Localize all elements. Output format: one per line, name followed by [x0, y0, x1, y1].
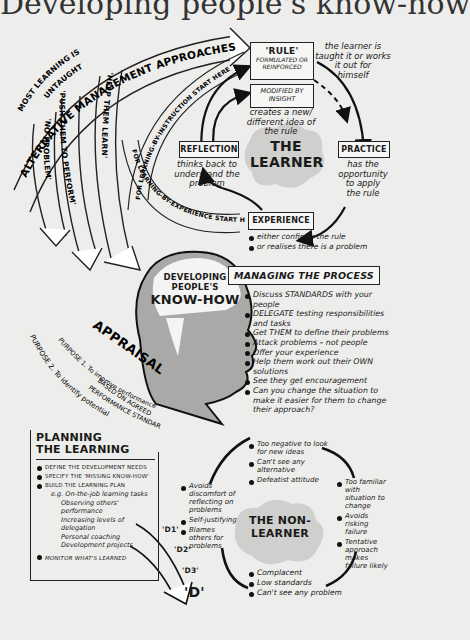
list-item: Defeatist attitude: [248, 476, 328, 484]
reflection-note: thinks back tounderstand the problem: [172, 160, 242, 189]
list-item: Offer your experience: [244, 348, 390, 358]
planning-box-bottom: [30, 580, 158, 581]
list-item: Can't see any alternative: [248, 458, 328, 474]
list-item: DEFINE THE DEVELOPMENT NEEDS: [36, 463, 159, 472]
non-learner-right: Too familiar with situation to change Av…: [336, 478, 392, 570]
list-item: Avoids discomfort of reflecting on probl…: [180, 482, 238, 514]
list-item: SPECIFY THE 'MISSING KNOW-HOW': [36, 472, 159, 481]
reflection-box: REFLECTION: [179, 141, 239, 158]
non-learner-left: Avoids discomfort of reflecting on probl…: [180, 482, 238, 550]
learner-center: THELEARNER: [250, 138, 322, 170]
practice-box: PRACTICE: [338, 141, 390, 158]
most-learning-label: MOST LEARNING IS: [16, 47, 81, 113]
experience-box: EXPERIENCE: [248, 212, 314, 230]
d3-label: 'D3': [182, 566, 199, 575]
modified-note: creates a new/different idea of the rule: [244, 108, 318, 137]
list-item: Complacent: [248, 568, 348, 578]
planning-box-right: [158, 452, 159, 580]
list-item: Tentative approach makes failure likely: [336, 538, 392, 570]
list-item: Too familiar with situation to change: [336, 478, 392, 510]
list-item: See they get encouragement: [244, 376, 390, 386]
list-item: Attack problems – not people: [244, 338, 390, 348]
managing-list: Discuss STANDARDS with your people DELEG…: [244, 290, 390, 415]
list-item: Discuss STANDARDS with your people: [244, 290, 390, 309]
non-learner-center: THE NON-LEARNER: [242, 514, 318, 540]
list-item: Get THEM to define their problems: [244, 328, 390, 338]
planning-box: PLANNING THE LEARNING DEFINE THE DEVELOP…: [30, 430, 159, 581]
list-item: Low standards: [248, 578, 348, 588]
list-item: Can't see any problem: [248, 588, 348, 598]
experience-bullets: either confirms the rule or realises the…: [248, 232, 367, 252]
managing-process-box: MANAGING THE PROCESS: [228, 266, 380, 285]
list-item: Self-justifying: [180, 516, 238, 524]
branch-no-problem: 'NO PROBLEM': [42, 118, 53, 181]
rule-box: 'RULE' FORMULATED OR REINFORCED: [250, 42, 314, 80]
list-item: BUILD THE LEARNING PLAN: [36, 481, 159, 490]
d1-label: 'D1': [162, 525, 179, 534]
non-learner-top: Too negative to look for new ideas Can't…: [248, 440, 328, 484]
list-item: Blames others for problems: [180, 526, 238, 550]
list-item: Help them work out their OWN solutions: [244, 357, 390, 376]
list-item: Avoids risking failure: [336, 512, 392, 536]
list-item: Can you change the situation to make it …: [244, 386, 390, 415]
list-item: MONITOR WHAT'S LEARNED: [36, 553, 159, 563]
non-learner-bottom: Complacent Low standards Can't see any p…: [248, 568, 348, 598]
rule-note: the learner istaught it or works it out …: [314, 42, 392, 80]
list-item: Too negative to look for new ideas: [248, 440, 328, 456]
list-item: DELEGATE testing responsibilities and ta…: [244, 309, 390, 328]
modified-by-insight-box: MODIFIED BY INSIGHT: [250, 84, 314, 108]
d-label: 'D': [184, 584, 205, 600]
practice-note: has theopportunity to applythe rule: [334, 160, 392, 198]
